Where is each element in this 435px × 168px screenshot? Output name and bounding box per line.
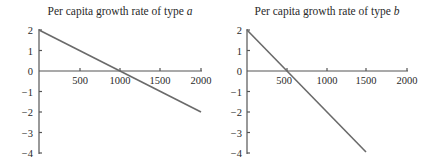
svg-text:2000: 2000 — [397, 75, 418, 86]
figure: Per capita growth rate of type a 2 1 0 −… — [0, 0, 435, 168]
svg-text:1500: 1500 — [150, 75, 171, 86]
svg-text:500: 500 — [72, 75, 88, 86]
svg-text:1500: 1500 — [356, 75, 377, 86]
chart-a-title: Per capita growth rate of type a — [48, 5, 193, 18]
svg-text:1000: 1000 — [317, 75, 338, 86]
svg-text:−3: −3 — [231, 128, 242, 139]
svg-text:−2: −2 — [231, 107, 242, 118]
chart-type-a: Per capita growth rate of type a 2 1 0 −… — [22, 5, 212, 159]
svg-text:0: 0 — [28, 66, 33, 77]
svg-text:−4: −4 — [22, 148, 34, 159]
svg-text:1000: 1000 — [110, 75, 131, 86]
svg-text:−3: −3 — [22, 128, 33, 139]
svg-text:1: 1 — [28, 46, 33, 57]
svg-text:0: 0 — [237, 66, 242, 77]
svg-text:500: 500 — [276, 75, 292, 86]
svg-text:−2: −2 — [22, 107, 33, 118]
chart-type-b: Per capita growth rate of type b 2 1 0 −… — [231, 5, 418, 159]
svg-text:2000: 2000 — [191, 75, 212, 86]
svg-text:2: 2 — [28, 25, 33, 36]
svg-text:−4: −4 — [231, 148, 243, 159]
chart-b-series-line — [247, 30, 366, 152]
svg-text:−1: −1 — [22, 87, 33, 98]
svg-text:2: 2 — [237, 25, 242, 36]
svg-text:−1: −1 — [231, 87, 242, 98]
svg-text:1: 1 — [237, 46, 242, 57]
chart-b-title: Per capita growth rate of type b — [255, 5, 400, 18]
